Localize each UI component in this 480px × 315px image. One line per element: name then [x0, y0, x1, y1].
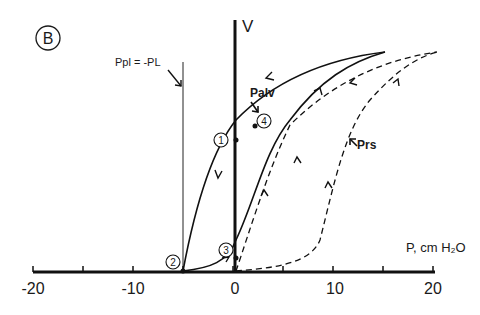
arrow-icon — [261, 190, 268, 196]
point-marker-1: 1 — [214, 133, 228, 147]
point-dot — [234, 138, 239, 143]
point-label: 4 — [261, 116, 267, 127]
prs-label: Prs — [357, 138, 377, 152]
point-label: 3 — [223, 245, 229, 256]
arrow-icon — [393, 79, 399, 86]
x-tick-label: 20 — [424, 280, 442, 297]
x-tick-label: 0 — [231, 280, 240, 297]
pleural-line-label: Ppl = -PL — [115, 56, 161, 68]
prs-arrow — [350, 139, 357, 146]
arrow-icon — [222, 257, 229, 262]
panel-label-text: B — [43, 30, 54, 47]
point-dot — [234, 256, 239, 261]
pleural-label-arrow — [168, 70, 181, 86]
arrow-icon — [325, 182, 332, 188]
panel-label: B — [36, 26, 60, 50]
x-tick-label: -20 — [21, 280, 44, 297]
x-tick-label: -10 — [121, 280, 144, 297]
arrow-icon — [294, 157, 301, 163]
point-label: 1 — [218, 135, 224, 146]
point-marker-2: 2 — [166, 255, 180, 269]
point-marker-3: 3 — [219, 243, 233, 257]
palv-label: Palv — [250, 86, 275, 100]
point-marker-4: 4 — [257, 114, 271, 128]
volume-axis-label: V — [242, 17, 254, 36]
pressure-axis-label: P, cm H₂O — [406, 240, 466, 255]
arrow-icon — [266, 72, 274, 80]
point-label: 2 — [170, 257, 176, 268]
pressure-volume-diagram: B V Ppl = -PL -20 -10 0 10 20 P, cm H₂O … — [0, 0, 480, 315]
x-tick-labels: -20 -10 0 10 20 — [21, 280, 442, 297]
x-tick-label: 10 — [326, 280, 344, 297]
point-dot — [253, 124, 258, 129]
arrow-icon — [215, 170, 222, 178]
point-dot — [181, 269, 186, 274]
